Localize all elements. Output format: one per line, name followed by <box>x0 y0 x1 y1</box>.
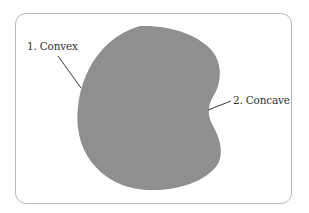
concave-leader-line <box>208 101 231 110</box>
convex-leader-line <box>58 56 81 88</box>
convex-concave-shape <box>77 26 220 190</box>
lens-shape-diagram <box>0 0 309 213</box>
convex-label: 1. Convex <box>27 40 78 52</box>
concave-label: 2. Concave <box>233 94 290 106</box>
